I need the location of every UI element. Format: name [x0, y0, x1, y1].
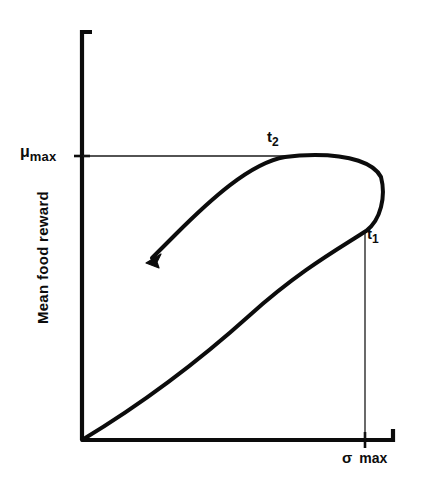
y-axis-line — [82, 32, 92, 440]
y-axis-tick-label-mu-max: μmax — [20, 144, 56, 163]
mu-max-subscript: max — [30, 149, 57, 164]
sigma-symbol: σ — [342, 449, 352, 466]
curve-point-label-t1: t1 — [367, 226, 379, 245]
t1-subscript: 1 — [372, 232, 379, 246]
x-axis-line — [82, 429, 393, 440]
t2-subscript: 2 — [272, 135, 279, 149]
mu-symbol: μ — [20, 143, 30, 160]
trajectory-curve — [82, 155, 383, 440]
x-axis-tick-label-sigma-max: σmax — [342, 450, 387, 465]
figure-root: Mean food reward μmax σmax t2 t1 — [0, 0, 421, 487]
y-axis-title: Mean food reward — [35, 178, 50, 338]
curve-point-label-t2: t2 — [267, 129, 279, 148]
sigma-max-word: max — [359, 450, 387, 466]
plot-canvas — [0, 0, 421, 487]
